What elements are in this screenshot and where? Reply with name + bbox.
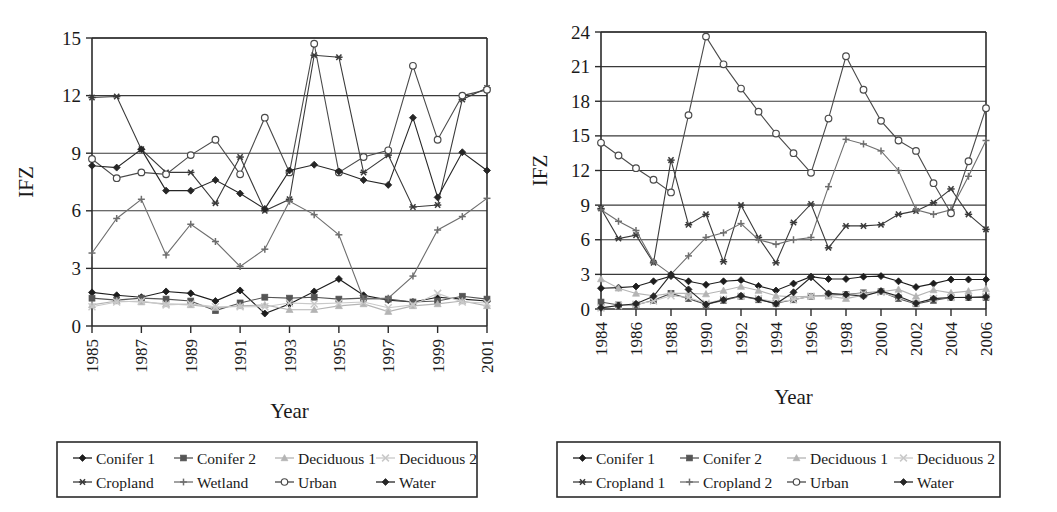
marker-asterisk-icon — [236, 154, 243, 160]
legend-label: Cropland 1 — [596, 474, 665, 491]
marker-asterisk-icon — [895, 212, 902, 218]
left-legend: Conifer 1Conifer 2Deciduous 1Deciduous 2… — [57, 442, 477, 497]
marker-diamond-icon — [650, 278, 657, 285]
marker-circle-icon — [385, 147, 392, 154]
marker-diamond-icon — [633, 283, 640, 290]
x-tick-label: 2000 — [872, 322, 891, 356]
marker-circle-icon — [685, 112, 692, 119]
marker-circle-icon — [187, 152, 194, 159]
marker-asterisk-icon — [702, 212, 709, 218]
x-tick-label: 2001 — [478, 339, 497, 373]
marker-circle-icon — [410, 63, 417, 70]
marker-plus-icon — [930, 211, 937, 218]
marker-circle-icon — [163, 171, 170, 178]
marker-asterisk-icon — [212, 200, 219, 206]
legend-label: Urban — [810, 474, 849, 491]
legend-label: Deciduous 2 — [917, 450, 995, 467]
x-tick-label: 1998 — [837, 322, 856, 356]
y-tick-label: 3 — [72, 258, 82, 279]
marker-plus-icon — [720, 229, 727, 236]
legend-label: Conifer 1 — [96, 450, 155, 467]
marker-diamond-icon — [598, 285, 605, 292]
legend-label: Deciduous 1 — [298, 450, 376, 467]
marker-diamond-icon — [825, 275, 832, 282]
legend-label: Deciduous 1 — [810, 450, 888, 467]
marker-plus-icon — [261, 246, 268, 253]
marker-circle-icon — [89, 156, 96, 163]
marker-diamond-icon — [163, 187, 170, 194]
marker-diamond-icon — [843, 275, 850, 282]
marker-plus-icon — [913, 206, 920, 213]
y-tick-label: 0 — [72, 316, 82, 337]
marker-circle-icon — [895, 137, 902, 144]
x-tick-label: 1985 — [83, 339, 102, 373]
right-legend: Conifer 1Conifer 2Deciduous 1Deciduous 2… — [557, 442, 1000, 497]
marker-triangle-icon — [930, 286, 937, 292]
marker-triangle-icon — [598, 275, 605, 281]
marker-plus-icon — [773, 241, 780, 248]
marker-diamond-icon — [163, 288, 170, 295]
x-tick-label: 1996 — [802, 322, 821, 356]
series-line — [601, 160, 986, 263]
legend-label: Deciduous 2 — [399, 450, 477, 467]
marker-circle-icon — [650, 176, 657, 183]
x-axis: 198519871989199119931995199719992001 — [83, 326, 497, 373]
y-tick-label: 15 — [571, 125, 590, 146]
x-tick-label: 1988 — [662, 322, 681, 356]
legend-label: Cropland 2 — [703, 474, 772, 491]
marker-diamond-icon — [720, 278, 727, 285]
x-tick-label: 1984 — [592, 322, 611, 357]
marker-circle-icon — [738, 85, 745, 92]
series-line — [92, 118, 487, 209]
y-axis-title: IFZ — [14, 166, 38, 198]
marker-circle-icon — [965, 158, 972, 165]
left-chart-svg: 0369121519851987198919911993199519971999… — [0, 0, 528, 512]
marker-circle-icon — [138, 169, 145, 176]
marker-circle-icon — [633, 165, 640, 172]
x-axis: 1984198619881990199219941996199820002002… — [592, 309, 996, 356]
marker-circle-icon — [878, 118, 885, 125]
marker-plus-icon — [615, 218, 622, 225]
marker-circle-icon — [703, 33, 710, 40]
marker-diamond-icon — [237, 190, 244, 197]
x-tick-label: 1986 — [627, 322, 646, 356]
marker-diamond-icon — [895, 278, 902, 285]
x-axis-title: Year — [270, 399, 309, 423]
marker-diamond-icon — [212, 177, 219, 184]
y-tick-label: 6 — [72, 200, 82, 221]
marker-square-icon — [311, 294, 317, 300]
y-tick-label: 18 — [571, 91, 590, 112]
marker-circle-icon — [793, 479, 799, 485]
x-tick-label: 2006 — [977, 322, 996, 356]
legend-label: Urban — [298, 474, 337, 491]
right-chart-svg: 0369121518212419841986198819901992199419… — [529, 0, 1057, 512]
marker-diamond-icon — [703, 281, 710, 288]
marker-asterisk-icon — [187, 170, 194, 176]
x-tick-label: 1993 — [281, 339, 300, 373]
marker-diamond-icon — [409, 114, 416, 121]
marker-circle-icon — [773, 130, 780, 137]
marker-asterisk-icon — [113, 94, 120, 100]
y-axis: 03691215 — [62, 28, 92, 337]
marker-square-icon — [687, 455, 693, 461]
marker-diamond-icon — [965, 276, 972, 283]
y-tick-label: 9 — [581, 195, 591, 216]
marker-asterisk-icon — [409, 204, 416, 210]
series-line — [92, 198, 487, 299]
gridlines — [601, 32, 986, 309]
chart-panel-right: 0369121518212419841986198819901992199419… — [529, 0, 1057, 512]
marker-triangle-icon — [895, 286, 902, 292]
marker-circle-icon — [948, 210, 955, 217]
marker-circle-icon — [261, 114, 268, 121]
marker-circle-icon — [808, 169, 815, 176]
marker-diamond-icon — [385, 181, 392, 188]
marker-asterisk-icon — [877, 222, 884, 228]
marker-circle-icon — [598, 139, 605, 146]
y-tick-label: 12 — [62, 85, 81, 106]
marker-circle-icon — [790, 150, 797, 157]
legend-label: Water — [917, 474, 954, 491]
marker-circle-icon — [434, 136, 441, 143]
x-axis-title: Year — [774, 385, 813, 409]
figure-root: 0369121519851987198919911993199519971999… — [0, 0, 1057, 512]
x-tick-label: 1995 — [330, 339, 349, 373]
